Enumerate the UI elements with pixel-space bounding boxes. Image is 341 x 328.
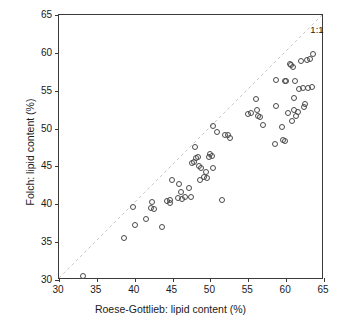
y-tick-mark — [55, 91, 59, 92]
data-point — [227, 135, 233, 141]
x-tick-label: 30 — [52, 284, 63, 295]
reference-line-label: 1:1 — [310, 24, 323, 35]
data-point — [143, 216, 149, 222]
x-tick-label: 50 — [204, 284, 215, 295]
data-point — [253, 96, 259, 102]
data-point — [192, 144, 198, 150]
x-tick-mark — [324, 278, 325, 282]
data-point — [295, 109, 301, 115]
data-point — [273, 77, 279, 83]
x-tick-mark — [135, 278, 136, 282]
data-point — [282, 138, 288, 144]
data-point — [302, 101, 308, 107]
x-tick-label: 65 — [317, 284, 328, 295]
x-tick-mark — [248, 278, 249, 282]
data-point — [121, 235, 127, 241]
data-point — [219, 197, 225, 203]
y-tick-mark — [55, 204, 59, 205]
y-tick-mark — [55, 242, 59, 243]
data-point — [309, 84, 315, 90]
data-point — [290, 64, 296, 70]
data-point — [209, 153, 215, 159]
x-tick-mark — [286, 278, 287, 282]
data-point — [291, 95, 297, 101]
data-point — [298, 58, 304, 64]
data-point — [203, 169, 209, 175]
data-point — [176, 181, 182, 187]
data-point — [210, 165, 216, 171]
y-tick-mark — [55, 129, 59, 130]
x-tick-label: 40 — [128, 284, 139, 295]
x-tick-mark — [97, 278, 98, 282]
data-point — [186, 185, 192, 191]
data-point — [292, 78, 298, 84]
data-point — [151, 206, 157, 212]
data-point — [159, 224, 165, 230]
x-tick-label: 60 — [280, 284, 291, 295]
data-point — [80, 273, 86, 279]
data-point — [307, 56, 313, 62]
data-point — [204, 175, 210, 181]
data-point — [289, 118, 295, 124]
data-point — [272, 141, 278, 147]
y-axis-label: Folch: lipid content (%) — [24, 57, 36, 247]
data-point — [260, 122, 266, 128]
y-tick-mark — [55, 166, 59, 167]
data-point — [195, 154, 201, 160]
data-point — [310, 51, 316, 57]
data-point — [273, 103, 279, 109]
plot-area: 1:1 — [58, 14, 323, 279]
y-tick-label: 60 — [28, 46, 52, 57]
x-axis-label: Roese-Gottlieb: lipid content (%) — [0, 303, 341, 315]
y-tick-mark — [55, 53, 59, 54]
data-points-layer — [59, 15, 322, 278]
x-tick-mark — [210, 278, 211, 282]
x-tick-label: 55 — [242, 284, 253, 295]
x-tick-label: 45 — [166, 284, 177, 295]
y-tick-mark — [55, 280, 59, 281]
scatter-plot-figure: 1:1 3035404550556065 3035404550556065 Ro… — [0, 0, 341, 328]
y-tick-label: 30 — [28, 274, 52, 285]
x-tick-mark — [59, 278, 60, 282]
x-tick-label: 35 — [90, 284, 101, 295]
data-point — [283, 78, 289, 84]
data-point — [214, 129, 220, 135]
y-tick-label: 65 — [28, 9, 52, 20]
data-point — [188, 194, 194, 200]
data-point — [279, 124, 285, 130]
data-point — [169, 177, 175, 183]
data-point — [257, 114, 263, 120]
data-point — [182, 194, 188, 200]
y-tick-mark — [55, 15, 59, 16]
data-point — [132, 222, 138, 228]
data-point — [130, 204, 136, 210]
x-tick-mark — [173, 278, 174, 282]
data-point — [149, 199, 155, 205]
